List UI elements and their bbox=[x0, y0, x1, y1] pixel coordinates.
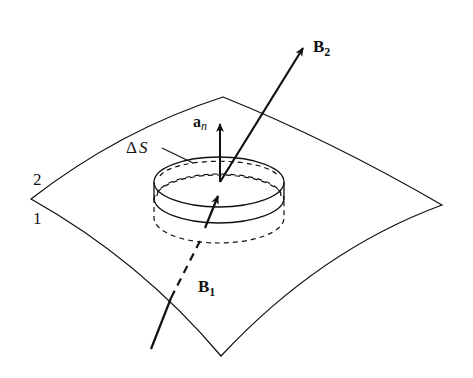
normal-vector-label: an bbox=[193, 113, 207, 133]
delta-symbol: Δ bbox=[126, 138, 137, 157]
b2-label: B2 bbox=[313, 37, 330, 59]
delta-s-label: ΔS bbox=[126, 138, 148, 157]
b1-vector-lower-segment bbox=[151, 298, 171, 349]
region-2-label: 2 bbox=[33, 170, 42, 189]
area-symbol: S bbox=[139, 138, 148, 157]
interface-surface bbox=[31, 97, 442, 356]
region-1-label: 1 bbox=[33, 209, 42, 228]
b2-vector-arrow bbox=[220, 48, 303, 182]
boundary-pillbox-diagram: 2 1 ΔS an B2 B1 bbox=[0, 0, 473, 378]
b1-vector-hidden-segment bbox=[171, 241, 200, 298]
area-leader-line bbox=[162, 148, 193, 163]
b1-label: B1 bbox=[198, 277, 215, 299]
